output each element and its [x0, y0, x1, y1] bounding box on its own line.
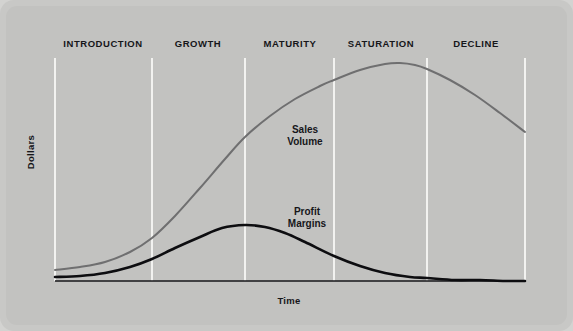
chart-canvas [0, 0, 573, 331]
product-life-cycle-chart: INTRODUCTION GROWTH MATURITY SATURATION … [0, 0, 573, 331]
stage-label-maturity: MATURITY [264, 38, 317, 49]
stage-divider-lines [55, 58, 525, 281]
x-axis-label: Time [277, 295, 300, 306]
series-label-profit-margins: Profit Margins [288, 206, 326, 230]
stage-label-introduction: INTRODUCTION [63, 38, 142, 49]
stage-label-saturation: SATURATION [348, 38, 414, 49]
chart-series-curves [55, 63, 525, 281]
stage-label-growth: GROWTH [175, 38, 222, 49]
y-axis-label: Dollars [25, 135, 36, 169]
stage-label-decline: DECLINE [453, 38, 499, 49]
curve-sales-volume [55, 63, 525, 270]
series-label-profit-margins-line2: Margins [288, 218, 326, 230]
series-label-sales-volume: Sales Volume [287, 124, 322, 148]
curve-profit-margins [55, 225, 525, 281]
series-label-sales-volume-line2: Volume [287, 136, 322, 148]
series-label-profit-margins-line1: Profit [288, 206, 326, 218]
series-label-sales-volume-line1: Sales [287, 124, 322, 136]
